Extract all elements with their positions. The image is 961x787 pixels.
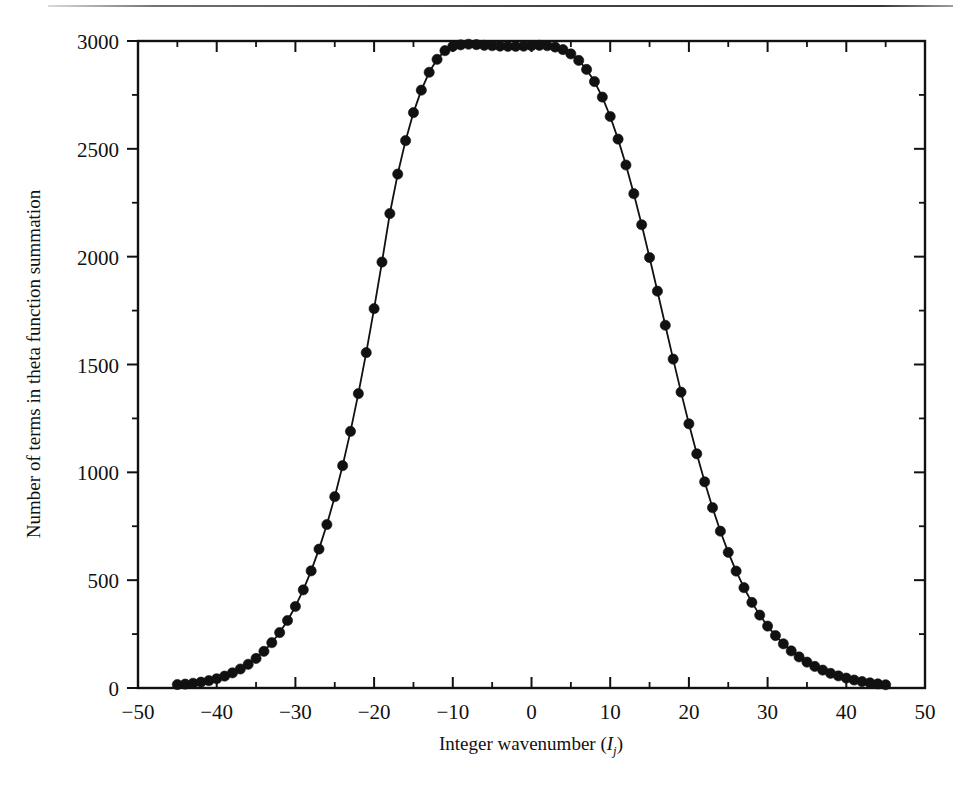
- y-tick-label: 500: [88, 569, 120, 593]
- data-point-marker: [393, 169, 403, 179]
- data-point-marker: [700, 477, 710, 487]
- data-point-marker: [306, 566, 316, 576]
- data-point-marker: [275, 627, 285, 637]
- data-point-marker: [652, 286, 662, 296]
- x-axis-tick-labels: −50−40−30−20−1001020304050: [122, 700, 936, 724]
- x-tick-label: −40: [200, 700, 233, 724]
- plot-frame: [138, 41, 925, 688]
- data-point-marker: [581, 64, 591, 74]
- y-tick-label: 2000: [77, 246, 119, 270]
- data-point-marker: [723, 547, 733, 557]
- data-point-marker: [692, 449, 702, 459]
- data-point-marker: [715, 526, 725, 536]
- data-point-marker: [613, 134, 623, 144]
- x-tick-label: −20: [358, 700, 391, 724]
- data-point-marker: [621, 160, 631, 170]
- data-point-marker: [763, 621, 773, 631]
- data-point-marker: [644, 252, 654, 262]
- data-point-marker: [668, 354, 678, 364]
- data-point-marker: [345, 426, 355, 436]
- data-point-marker: [676, 387, 686, 397]
- y-axis-tick-labels: 050010001500200025003000: [77, 30, 119, 701]
- data-point-marker: [361, 348, 371, 358]
- x-tick-label: 0: [526, 700, 537, 724]
- data-point-marker: [707, 503, 717, 513]
- data-point-marker: [400, 136, 410, 146]
- data-point-marker: [755, 610, 765, 620]
- x-axis-title: Integer wavenumber (Ij): [439, 733, 623, 758]
- x-tick-label: 20: [678, 700, 699, 724]
- data-point-marker: [684, 419, 694, 429]
- data-point-marker: [637, 220, 647, 230]
- figure-container: −50−40−30−20−1001020304050 0500100015002…: [0, 0, 961, 787]
- data-point-marker: [282, 615, 292, 625]
- x-tick-label: 40: [836, 700, 857, 724]
- data-point-marker: [251, 653, 261, 663]
- data-point-marker: [369, 304, 379, 314]
- x-tick-label: −30: [279, 700, 312, 724]
- x-tick-label: 10: [600, 700, 621, 724]
- data-point-marker: [589, 76, 599, 86]
- data-point-marker: [377, 257, 387, 267]
- data-point-marker: [353, 389, 363, 399]
- data-point-marker: [629, 189, 639, 199]
- data-point-marker: [416, 85, 426, 95]
- data-point-marker: [290, 601, 300, 611]
- data-point-marker: [314, 544, 324, 554]
- data-point-marker: [881, 680, 891, 690]
- x-tick-label: −50: [122, 700, 155, 724]
- data-point-marker: [605, 111, 615, 121]
- x-tick-label: 30: [757, 700, 778, 724]
- y-tick-label: 2500: [77, 138, 119, 162]
- data-point-marker: [385, 208, 395, 218]
- data-point-marker: [338, 461, 348, 471]
- y-tick-label: 1000: [77, 461, 119, 485]
- y-tick-label: 3000: [77, 30, 119, 54]
- data-point-marker: [747, 597, 757, 607]
- data-point-marker: [574, 55, 584, 65]
- line-chart: −50−40−30−20−1001020304050 0500100015002…: [0, 0, 961, 787]
- data-point-marker: [259, 646, 269, 656]
- data-point-marker: [330, 492, 340, 502]
- x-tick-label: −10: [436, 700, 469, 724]
- x-tick-label: 50: [915, 700, 936, 724]
- data-point-marker: [731, 566, 741, 576]
- data-point-marker: [778, 639, 788, 649]
- data-point-marker: [770, 630, 780, 640]
- data-point-marker: [267, 638, 277, 648]
- y-tick-label: 0: [109, 677, 120, 701]
- y-axis-title: Number of terms in theta function summat…: [23, 189, 44, 538]
- data-point-marker: [424, 67, 434, 77]
- y-tick-label: 1500: [77, 354, 119, 378]
- data-point-marker: [298, 585, 308, 595]
- data-point-marker: [432, 54, 442, 64]
- data-point-marker: [660, 320, 670, 330]
- data-point-marker: [739, 583, 749, 593]
- data-point-marker: [408, 108, 418, 118]
- data-point-marker: [597, 92, 607, 102]
- data-point-marker: [322, 519, 332, 529]
